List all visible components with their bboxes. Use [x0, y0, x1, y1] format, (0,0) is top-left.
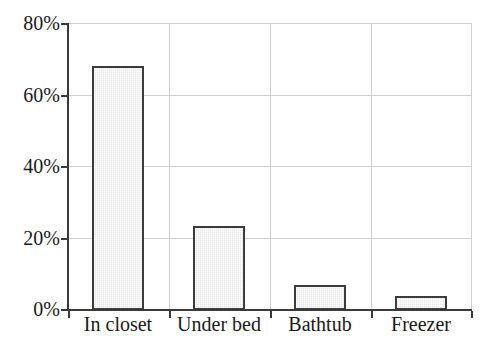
y-axis-label-60: 60% — [2, 85, 60, 105]
y-axis-label-0: 0% — [2, 299, 60, 319]
bar-under-bed — [193, 226, 245, 310]
y-tick-60 — [61, 95, 69, 97]
x-axis-label-in-closet: In closet — [84, 314, 152, 335]
y-tick-20 — [61, 238, 69, 240]
x-axis-label-freezer: Freezer — [391, 314, 451, 335]
bar-chart: 80% 60% 40% 20% 0% In closet Under bed B… — [0, 0, 480, 339]
y-tick-40 — [61, 166, 69, 168]
y-axis-label-40: 40% — [2, 156, 60, 176]
x-axis-label-bathtub: Bathtub — [288, 314, 351, 335]
y-axis-labels: 80% 60% 40% 20% 0% — [0, 0, 60, 339]
y-tick-80 — [61, 23, 69, 25]
x-axis-label-under-bed: Under bed — [177, 314, 261, 335]
bar-in-closet — [92, 66, 144, 310]
x-axis-labels: In closet Under bed Bathtub Freezer — [68, 314, 480, 339]
y-axis-label-20: 20% — [2, 228, 60, 248]
y-axis-label-80: 80% — [2, 13, 60, 33]
bars-layer — [68, 23, 472, 310]
bar-bathtub — [294, 285, 346, 310]
bar-freezer — [395, 296, 447, 310]
